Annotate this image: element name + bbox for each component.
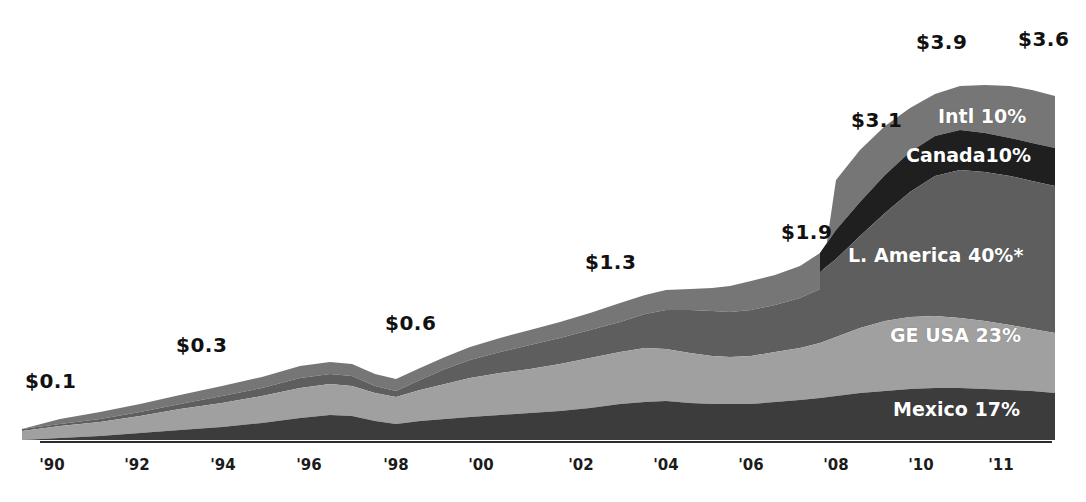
total-label-1990: $0.1 xyxy=(25,371,76,391)
total-label-1992: $0.3 xyxy=(176,335,227,355)
total-label-2006: $1.9 xyxy=(781,222,832,242)
x-tick-2006: '06 xyxy=(738,458,763,473)
x-tick-2010: '10 xyxy=(908,458,933,473)
total-label-2008: $3.1 xyxy=(851,110,902,130)
x-tick-1996: '96 xyxy=(296,458,321,473)
x-axis-rule xyxy=(40,441,1052,443)
x-tick-1990: '90 xyxy=(39,458,64,473)
x-tick-1992: '92 xyxy=(124,458,149,473)
x-tick-2000: '00 xyxy=(468,458,493,473)
total-label-2010: $3.9 xyxy=(916,32,967,52)
x-tick-2008: '08 xyxy=(823,458,848,473)
x-tick-2004: '04 xyxy=(653,458,678,473)
x-tick-1994: '94 xyxy=(210,458,235,473)
series-label-canada: Canada10% xyxy=(906,146,1031,165)
total-label-1996: $0.6 xyxy=(385,313,436,333)
stacked-area-chart: $0.1 $0.3 $0.6 $1.3 $1.9 $3.1 $3.9 $3.6 … xyxy=(0,0,1086,502)
x-tick-2011: '11 xyxy=(988,458,1013,473)
x-tick-1998: '98 xyxy=(383,458,408,473)
series-label-mexico: Mexico 17% xyxy=(893,400,1020,419)
series-label-l-america: L. America 40%* xyxy=(848,246,1023,265)
series-label-ge-usa: GE USA 23% xyxy=(890,326,1021,345)
total-label-2002: $1.3 xyxy=(585,252,636,272)
x-tick-2002: '02 xyxy=(568,458,593,473)
total-label-2011: $3.6 xyxy=(1018,29,1069,49)
series-label-intl: Intl 10% xyxy=(938,107,1026,126)
